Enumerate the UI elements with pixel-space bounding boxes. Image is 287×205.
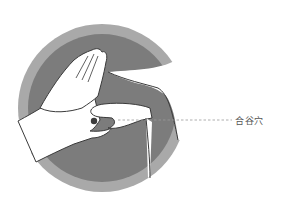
acupressure-illustration: 合谷穴 bbox=[0, 0, 287, 205]
acupoint-label: 合谷穴 bbox=[235, 114, 264, 127]
acupoint-dot bbox=[91, 118, 97, 124]
